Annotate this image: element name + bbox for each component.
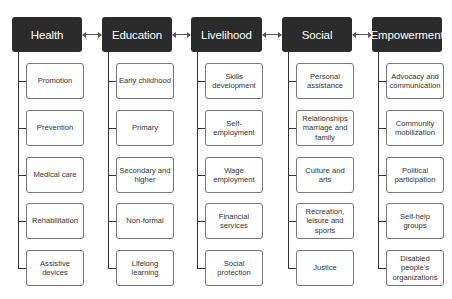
item-primary: Primary xyxy=(116,110,174,146)
connector-line-education xyxy=(108,52,109,269)
item-relationships-marriage-family: Relationships marriage and family xyxy=(296,110,354,146)
branch-line xyxy=(108,128,116,129)
branch-line xyxy=(18,128,26,129)
item-assistive-devices: Assistive devices xyxy=(26,250,84,286)
branch-line xyxy=(197,221,205,222)
header-empowerment: Empowerment xyxy=(372,17,442,52)
item-promotion: Promotion xyxy=(26,63,84,99)
branch-line xyxy=(108,175,116,176)
item-personal-assistance: Personal assistance xyxy=(296,63,354,99)
connector-line-empowerment xyxy=(378,52,379,269)
item-lifelong-learning: Lifelong learning xyxy=(116,250,174,286)
branch-line xyxy=(288,221,296,222)
branch-line xyxy=(378,128,386,129)
item-early-childhood: Early childhood xyxy=(116,63,174,99)
item-wage-employment: Wage employment xyxy=(205,157,263,193)
item-culture-and-arts: Culture and arts xyxy=(296,157,354,193)
header-livelihood: Livelihood xyxy=(191,17,262,52)
branch-line xyxy=(18,268,26,269)
connector-line-social xyxy=(288,52,289,269)
item-rehabilitation: Rehabilitation xyxy=(26,203,84,239)
branch-line xyxy=(18,221,26,222)
bidirectional-arrow-icon xyxy=(83,34,101,35)
item-social-protection: Social protection xyxy=(205,250,263,286)
item-recreation-leisure-sports: Recreation, leisure and sports xyxy=(296,203,354,239)
header-education: Education xyxy=(102,17,172,52)
header-health: Health xyxy=(12,17,82,52)
branch-line xyxy=(378,268,386,269)
bidirectional-arrow-icon xyxy=(173,34,190,35)
branch-line xyxy=(18,81,26,82)
branch-line xyxy=(197,81,205,82)
branch-line xyxy=(197,128,205,129)
branch-line xyxy=(108,81,116,82)
branch-line xyxy=(108,268,116,269)
branch-line xyxy=(18,175,26,176)
branch-line xyxy=(288,175,296,176)
item-skills-development: Skills development xyxy=(205,63,263,99)
item-justice: Justice xyxy=(296,250,354,286)
item-medical-care: Medical care xyxy=(26,157,84,193)
item-advocacy-communication: Advocacy and communication xyxy=(386,63,444,99)
item-non-formal: Non-formal xyxy=(116,203,174,239)
branch-line xyxy=(288,128,296,129)
item-financial-services: Financial services xyxy=(205,203,263,239)
branch-line xyxy=(378,81,386,82)
connector-line-livelihood xyxy=(197,52,198,269)
connector-line-health xyxy=(18,52,19,269)
branch-line xyxy=(288,268,296,269)
branch-line xyxy=(288,81,296,82)
item-political-participation: Political participation xyxy=(386,157,444,193)
item-self-employment: Self-employment xyxy=(205,110,263,146)
branch-line xyxy=(197,268,205,269)
branch-line xyxy=(378,175,386,176)
bidirectional-arrow-icon xyxy=(353,34,371,35)
item-community-mobilization: Community mobilization xyxy=(386,110,444,146)
branch-line xyxy=(197,175,205,176)
item-secondary-and-higher: Secondary and higher xyxy=(116,157,174,193)
bidirectional-arrow-icon xyxy=(263,34,281,35)
header-social: Social xyxy=(282,17,352,52)
item-disabled-peoples-organizations: Disabled people's organizations xyxy=(386,250,444,286)
branch-line xyxy=(108,221,116,222)
branch-line xyxy=(378,221,386,222)
item-prevention: Prevention xyxy=(26,110,84,146)
item-self-help-groups: Self-help groups xyxy=(386,203,444,239)
